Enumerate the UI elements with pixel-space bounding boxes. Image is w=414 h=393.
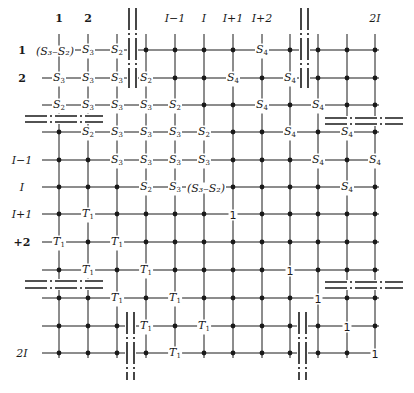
nonzero-dot	[373, 76, 378, 81]
block-s3: S3	[110, 126, 124, 141]
nonzero-dot	[57, 185, 62, 190]
nonzero-dot	[115, 185, 120, 190]
block-s3: S3	[139, 154, 153, 169]
nonzero-dot	[173, 212, 178, 217]
nonzero-dot	[231, 130, 236, 135]
nonzero-dot	[373, 185, 378, 190]
nonzero-dot	[288, 212, 293, 217]
nonzero-dot	[288, 48, 293, 53]
nonzero-dot	[345, 76, 350, 81]
block-t1: T1	[81, 264, 95, 279]
block-s3: S3	[139, 126, 153, 141]
block-s2: S2	[81, 126, 95, 141]
block-s4: S4	[311, 154, 325, 169]
block-s3: S3	[81, 72, 95, 87]
nonzero-dot	[231, 324, 236, 329]
block-difference: (S₃–S₂)	[35, 46, 75, 57]
nonzero-dot	[144, 351, 149, 356]
column-label: 1	[55, 13, 63, 24]
block-s3: S3	[197, 154, 211, 169]
nonzero-dot	[173, 268, 178, 273]
block-s3: S3	[168, 181, 182, 196]
block-t1: T1	[139, 320, 153, 335]
nonzero-dot	[86, 351, 91, 356]
column-label: 2I	[369, 13, 380, 24]
block-s2: S2	[52, 99, 66, 114]
nonzero-dot	[373, 240, 378, 245]
block-t1: T1	[52, 236, 66, 251]
block-difference: (S₃–S₂)	[186, 183, 226, 194]
block-s4: S4	[368, 154, 382, 169]
block-s2: S2	[168, 99, 182, 114]
nonzero-dot	[260, 268, 265, 273]
nonzero-dot	[373, 130, 378, 135]
nonzero-dot	[345, 158, 350, 163]
nonzero-dot	[231, 296, 236, 301]
unit-entry: 1	[314, 294, 323, 305]
block-s3: S3	[110, 72, 124, 87]
nonzero-dot	[231, 240, 236, 245]
unit-entry: 1	[371, 349, 380, 360]
column-label: I+1	[223, 13, 244, 24]
nonzero-dot	[373, 48, 378, 53]
nonzero-dot	[86, 185, 91, 190]
block-s4: S4	[340, 126, 354, 141]
nonzero-dot	[316, 268, 321, 273]
block-s2: S2	[110, 44, 124, 59]
row-label: 2I	[16, 348, 27, 359]
nonzero-dot	[316, 351, 321, 356]
unit-entry: 1	[229, 210, 238, 221]
row-label: 2	[18, 73, 26, 84]
block-t1: T1	[139, 264, 153, 279]
nonzero-dot	[373, 103, 378, 108]
block-s3: S3	[139, 99, 153, 114]
nonzero-dot	[202, 76, 207, 81]
row-label: I	[20, 182, 24, 193]
nonzero-dot	[231, 158, 236, 163]
nonzero-dot	[316, 185, 321, 190]
nonzero-dot	[202, 48, 207, 53]
block-t1: T1	[197, 320, 211, 335]
nonzero-dot	[86, 240, 91, 245]
nonzero-dot	[57, 212, 62, 217]
nonzero-dot	[57, 296, 62, 301]
row-label: I+1	[12, 209, 33, 220]
nonzero-dot	[345, 212, 350, 217]
nonzero-dot	[260, 296, 265, 301]
matrix-diagram: (S₃–S₂)S3S2S4S3S3S3S2S4S4S2S3S3S3S2S4S4S…	[0, 0, 414, 393]
nonzero-dot	[231, 48, 236, 53]
nonzero-dot	[231, 103, 236, 108]
nonzero-dot	[202, 212, 207, 217]
nonzero-dot	[288, 185, 293, 190]
nonzero-dot	[260, 185, 265, 190]
nonzero-dot	[86, 296, 91, 301]
block-s4: S4	[340, 181, 354, 196]
block-s2: S2	[139, 181, 153, 196]
block-s4: S4	[255, 99, 269, 114]
nonzero-dot	[202, 240, 207, 245]
nonzero-dot	[316, 76, 321, 81]
nonzero-dot	[115, 351, 120, 356]
nonzero-dot	[144, 212, 149, 217]
block-t1: T1	[110, 236, 124, 251]
nonzero-dot	[260, 351, 265, 356]
nonzero-dot	[57, 268, 62, 273]
block-s3: S3	[110, 99, 124, 114]
nonzero-dot	[260, 76, 265, 81]
nonzero-dot	[144, 240, 149, 245]
nonzero-dot	[288, 351, 293, 356]
block-t1: T1	[81, 208, 95, 223]
block-s3: S3	[110, 154, 124, 169]
nonzero-dot	[86, 158, 91, 163]
row-label: +2	[14, 237, 31, 248]
nonzero-dot	[173, 240, 178, 245]
nonzero-dot	[202, 268, 207, 273]
block-t1: T1	[168, 347, 182, 362]
nonzero-dot	[57, 158, 62, 163]
block-s4: S4	[283, 126, 297, 141]
nonzero-dot	[316, 212, 321, 217]
nonzero-dot	[373, 296, 378, 301]
column-label: I+2	[252, 13, 273, 24]
nonzero-dot	[316, 48, 321, 53]
block-s3: S3	[81, 44, 95, 59]
